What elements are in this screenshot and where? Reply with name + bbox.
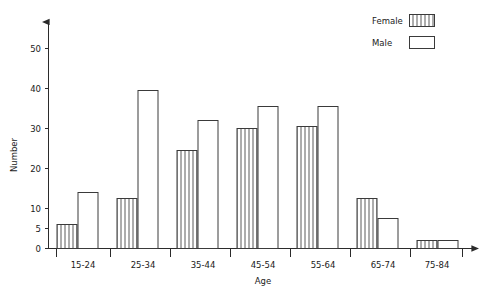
- bar-male-35-44: [198, 121, 218, 249]
- bar-male-45-54: [258, 107, 278, 249]
- bar-female-75-84: [417, 241, 437, 249]
- x-axis: 15-24 25-34 35-44 45-54 55-64 65-74 75-8…: [49, 249, 479, 287]
- bar-female-15-24: [57, 225, 77, 249]
- y-tick-label-5: 5: [36, 224, 41, 234]
- x-tick-label-55-64: 55-64: [311, 260, 336, 270]
- x-axis-title: Age: [255, 276, 271, 286]
- bar-female-45-54: [237, 129, 257, 249]
- y-tick-label-0: 0: [36, 244, 41, 254]
- bar-male-15-24: [78, 193, 98, 249]
- y-tick-label-20: 20: [30, 164, 41, 174]
- bar-chart: 0 5 10 20 30 40 50 Number 15-24 25-34: [0, 0, 488, 293]
- x-tick-label-65-74: 65-74: [371, 260, 396, 270]
- y-tick-label-30: 30: [30, 124, 41, 134]
- y-axis-title: Number: [9, 137, 19, 172]
- bar-male-55-64: [318, 107, 338, 249]
- bar-female-55-64: [297, 127, 317, 249]
- x-tick-label-35-44: 35-44: [191, 260, 216, 270]
- bar-female-35-44: [177, 151, 197, 249]
- legend-swatch-female: [410, 15, 435, 27]
- x-tick-label-75-84: 75-84: [425, 260, 450, 270]
- legend: Female Male: [372, 15, 435, 49]
- x-tick-label-25-34: 25-34: [131, 260, 156, 270]
- bar-female-65-74: [357, 199, 377, 249]
- bar-male-65-74: [378, 219, 398, 249]
- y-ticks: [45, 49, 49, 249]
- y-tick-label-50: 50: [30, 44, 41, 54]
- bar-male-75-84: [438, 241, 458, 249]
- x-tick-label-15-24: 15-24: [71, 260, 96, 270]
- chart-canvas: 0 5 10 20 30 40 50 Number 15-24 25-34: [0, 0, 488, 293]
- legend-label-female: Female: [372, 16, 403, 26]
- bar-male-25-34: [138, 91, 158, 249]
- y-axis: 0 5 10 20 30 40 50 Number: [9, 22, 49, 254]
- bar-female-25-34: [117, 199, 137, 249]
- y-tick-label-40: 40: [30, 84, 41, 94]
- legend-label-male: Male: [372, 38, 392, 48]
- bars-layer: [57, 91, 458, 249]
- x-ticks: [57, 249, 463, 257]
- legend-swatch-male: [410, 37, 435, 49]
- x-tick-label-45-54: 45-54: [251, 260, 276, 270]
- y-tick-label-10: 10: [30, 204, 41, 214]
